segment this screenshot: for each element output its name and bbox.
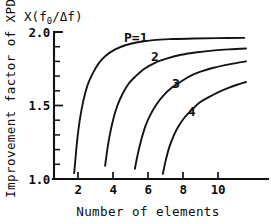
curve-4 [163, 82, 246, 174]
xpd-improvement-line-chart: X(f0/Δf) Improvement factor of XPD Numbe… [0, 0, 271, 224]
y-tick-label: 1.5 [29, 98, 50, 113]
curve-labels-group: P=1234 [124, 30, 196, 119]
y-tick-group: 1.01.52.0 [29, 25, 63, 187]
data-curves-group [74, 38, 246, 174]
x-tick-label: 2 [74, 182, 81, 197]
y-axis-title: Improvement factor of XPD [3, 0, 18, 198]
curve-label: 3 [172, 76, 180, 91]
curve-p1 [74, 38, 244, 173]
x-tick-label: 8 [179, 182, 186, 197]
y-unit-prefix: X(f [24, 9, 47, 24]
chart-figure: X(f0/Δf) Improvement factor of XPD Numbe… [0, 0, 271, 224]
curve-label: P=1 [124, 30, 148, 45]
x-tick-label: 4 [109, 182, 116, 197]
y-axis-unit-label: X(f0/Δf) [24, 9, 83, 26]
x-tick-label: 10 [211, 182, 225, 197]
axes-group [53, 32, 268, 179]
curve-label: 4 [188, 104, 196, 119]
curve-label: 2 [151, 49, 159, 64]
y-unit-suffix: /Δf) [52, 9, 82, 24]
y-tick-label: 1.0 [29, 172, 50, 187]
y-tick-label: 2.0 [29, 25, 50, 40]
x-tick-group: 246810 [74, 172, 225, 197]
x-tick-label: 6 [144, 182, 151, 197]
x-axis-title: Number of elements [76, 204, 220, 219]
